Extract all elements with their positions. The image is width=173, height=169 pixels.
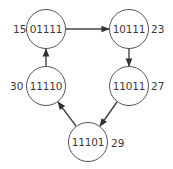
edge-11011-to-11101 xyxy=(100,102,117,126)
node-label: 10111 xyxy=(113,23,145,35)
node-label: 11110 xyxy=(30,80,62,92)
node-10111: 10111 23 xyxy=(110,10,165,49)
node-value: 30 xyxy=(10,80,23,92)
node-11101: 11101 29 xyxy=(69,123,125,162)
node-11011: 11011 27 xyxy=(110,67,165,106)
node-value: 29 xyxy=(111,137,124,149)
node-01111: 01111 15 xyxy=(13,10,66,49)
edge-11101-to-11110 xyxy=(58,102,76,126)
node-value: 27 xyxy=(151,80,164,92)
node-label: 01111 xyxy=(30,23,62,35)
cycle-diagram: 01111 15 10111 23 11011 27 11101 29 1111… xyxy=(0,0,173,169)
node-11110: 11110 30 xyxy=(10,67,66,106)
node-label: 11101 xyxy=(72,136,104,148)
node-value: 15 xyxy=(13,23,26,35)
node-value: 23 xyxy=(151,23,164,35)
node-label: 11011 xyxy=(113,80,145,92)
